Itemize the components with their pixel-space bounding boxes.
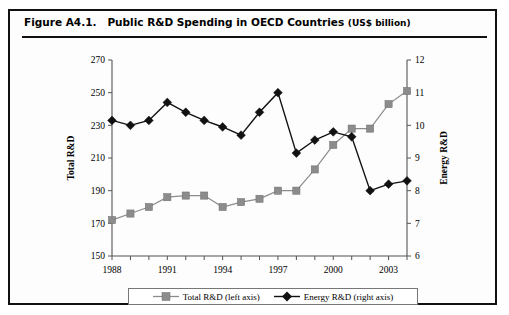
y-ticklabel-right: 10 — [415, 121, 425, 131]
data-point-total — [274, 187, 281, 194]
data-point-total — [403, 87, 410, 94]
rd-spending-line-chart: 1501701902102302502706789101112198819911… — [10, 39, 499, 307]
y-axis-title-right: Energy R&D — [439, 131, 449, 185]
data-point-total — [367, 125, 374, 132]
y-ticklabel-right: 7 — [415, 219, 420, 229]
data-point-energy — [108, 116, 117, 125]
legend-label-total: Total R&D (left axis) — [183, 292, 260, 302]
x-ticklabel: 1991 — [158, 265, 177, 275]
x-ticklabel: 2000 — [324, 265, 343, 275]
data-point-total — [385, 101, 392, 108]
figure-label: Figure A4.1. — [24, 16, 96, 28]
data-point-energy — [126, 121, 135, 130]
x-ticklabel: 1997 — [268, 265, 287, 275]
x-ticklabel: 1994 — [213, 265, 232, 275]
data-point-energy — [403, 176, 412, 185]
data-point-total — [330, 141, 337, 148]
y-ticklabel-left: 270 — [91, 55, 106, 65]
series-line-energy — [112, 93, 407, 191]
y-ticklabel-right: 8 — [415, 186, 420, 196]
y-ticklabel-left: 250 — [91, 88, 106, 98]
data-point-total — [145, 203, 152, 210]
figure-units: (US$ billion) — [348, 18, 411, 28]
data-point-energy — [329, 127, 338, 136]
y-ticklabel-left: 210 — [91, 153, 106, 163]
data-point-energy — [200, 116, 209, 125]
y-ticklabel-right: 11 — [415, 88, 424, 98]
data-point-energy — [366, 186, 375, 195]
figure-title: Public R&D Spending in OECD Countries — [107, 16, 344, 28]
data-point-energy — [310, 136, 319, 145]
data-point-energy — [292, 149, 301, 158]
figure-title-bar: Figure A4.1. Public R&D Spending in OECD… — [10, 11, 495, 39]
x-ticklabel: 2003 — [379, 265, 398, 275]
data-point-energy — [384, 180, 393, 189]
legend-item-total: Total R&D (left axis) — [153, 291, 260, 302]
y-ticklabel-right: 6 — [415, 251, 420, 261]
legend-label-energy: Energy R&D (right axis) — [304, 292, 394, 302]
y-ticklabel-right: 9 — [415, 153, 420, 163]
data-point-total — [256, 195, 263, 202]
data-point-total — [219, 203, 226, 210]
chart-plot-area: 1501701902102302502706789101112198819911… — [10, 39, 495, 307]
data-point-total — [348, 125, 355, 132]
data-point-total — [201, 192, 208, 199]
title-divider — [22, 36, 487, 38]
chart-legend: Total R&D (left axis) Energy R&D (right … — [128, 288, 418, 305]
data-point-total — [127, 210, 134, 217]
diamond-marker-icon — [274, 291, 300, 302]
data-point-total — [311, 166, 318, 173]
data-point-total — [293, 187, 300, 194]
y-ticklabel-left: 190 — [91, 186, 106, 196]
data-point-energy — [218, 123, 227, 132]
data-point-energy — [347, 132, 356, 141]
x-ticklabel: 1988 — [103, 265, 122, 275]
page-title: Figure A4.1. Public R&D Spending in OECD… — [24, 16, 411, 28]
y-ticklabel-left: 230 — [91, 121, 106, 131]
y-axis-title-left: Total R&D — [66, 135, 76, 180]
data-point-total — [108, 216, 115, 223]
legend-item-energy: Energy R&D (right axis) — [274, 291, 394, 302]
data-point-total — [237, 199, 244, 206]
data-point-total — [164, 194, 171, 201]
data-point-total — [182, 192, 189, 199]
figure-frame: Figure A4.1. Public R&D Spending in OECD… — [8, 9, 497, 305]
y-ticklabel-left: 150 — [91, 251, 106, 261]
y-ticklabel-left: 170 — [91, 219, 106, 229]
square-marker-icon — [153, 291, 179, 302]
data-point-energy — [181, 108, 190, 117]
y-ticklabel-right: 12 — [415, 55, 425, 65]
